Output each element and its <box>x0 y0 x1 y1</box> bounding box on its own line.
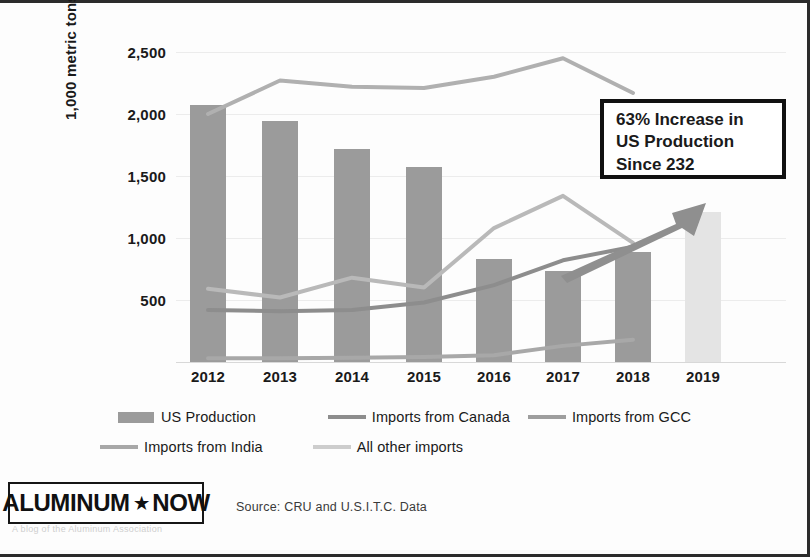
x-tick-2017: 2017 <box>528 368 598 385</box>
legend-label-all-other-imports: All other imports <box>357 439 463 455</box>
legend-label-imports-canada: Imports from Canada <box>372 409 510 425</box>
logo-text: ALUMINUM★NOW <box>2 489 210 517</box>
legend-item-imports-canada[interactable]: Imports from Canada <box>328 409 510 425</box>
legend-swatch-line-icon <box>528 415 566 419</box>
callout-line-3: Since 232 <box>616 154 772 176</box>
x-tick-2016: 2016 <box>459 368 529 385</box>
legend-row-2: Imports from India All other imports <box>100 434 780 460</box>
source-note: Source: CRU and U.S.I.T.C. Data <box>236 500 427 514</box>
trend-arrow <box>0 0 810 400</box>
x-tick-2015: 2015 <box>389 368 459 385</box>
chart-legend: US Production Imports from Canada Import… <box>0 404 810 464</box>
legend-item-us-production[interactable]: US Production <box>118 409 256 425</box>
legend-label-imports-india: Imports from India <box>144 439 263 455</box>
legend-item-imports-gcc[interactable]: Imports from GCC <box>528 409 691 425</box>
logo-star-icon: ★ <box>134 494 149 513</box>
logo-word-aluminum: ALUMINUM <box>2 489 129 516</box>
legend-item-imports-india[interactable]: Imports from India <box>100 439 263 455</box>
legend-swatch-line-icon <box>100 445 138 449</box>
x-tick-2013: 2013 <box>245 368 315 385</box>
x-tick-2014: 2014 <box>317 368 387 385</box>
chart-page: 1,000 metric tons 2,500 2,000 1,500 1,00… <box>0 0 810 557</box>
x-tick-2012: 2012 <box>173 368 243 385</box>
callout-box: 63% Increase in US Production Since 232 <box>600 99 786 179</box>
legend-swatch-line-icon <box>313 445 351 449</box>
callout-line-1: 63% Increase in <box>616 109 772 131</box>
legend-swatch-bar-icon <box>118 412 154 423</box>
legend-label-us-production: US Production <box>161 409 256 425</box>
logo-subtitle: A blog of the Aluminum Association <box>12 524 252 534</box>
x-tick-2019: 2019 <box>668 368 738 385</box>
aluminum-now-logo: ALUMINUM★NOW <box>8 482 204 524</box>
callout-line-2: US Production <box>616 131 772 153</box>
legend-label-imports-gcc: Imports from GCC <box>572 409 691 425</box>
legend-swatch-line-icon <box>328 415 366 419</box>
legend-row-1: US Production Imports from Canada Import… <box>118 404 798 430</box>
x-tick-2018: 2018 <box>598 368 668 385</box>
chart-plot-area: 1,000 metric tons 2,500 2,000 1,500 1,00… <box>0 0 810 400</box>
legend-item-all-other-imports[interactable]: All other imports <box>313 439 463 455</box>
logo-word-now: NOW <box>152 489 209 516</box>
